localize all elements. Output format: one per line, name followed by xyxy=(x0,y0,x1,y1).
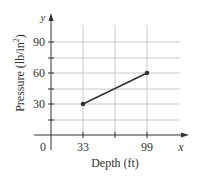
x-axis-symbol: x xyxy=(177,140,184,154)
y-axis-title: Pressure (lb/in2) xyxy=(12,34,27,112)
y-axis-title-main: Pressure (lb/in xyxy=(13,42,27,112)
y-axis-symbol: y xyxy=(40,11,46,23)
xtick-label-99: 99 xyxy=(141,140,153,154)
y-axis-title-end: ) xyxy=(13,34,27,38)
grid xyxy=(51,25,180,135)
origin-label: 0 xyxy=(40,140,46,154)
data-point-33-30 xyxy=(81,102,86,107)
xtick-label-33: 33 xyxy=(77,140,89,154)
ytick-label-90: 90 xyxy=(33,35,45,49)
x-axis-title: Depth (ft) xyxy=(91,156,139,170)
axes xyxy=(34,20,182,150)
ytick-label-60: 60 xyxy=(33,66,45,80)
ticks xyxy=(48,42,147,138)
x-axis-arrow-icon xyxy=(181,133,189,138)
data-point-99-60 xyxy=(145,71,150,76)
ytick-label-30: 30 xyxy=(33,97,45,111)
chart: 90 60 30 0 33 99 y x Depth (ft) Pressure… xyxy=(0,0,197,178)
y-axis-arrow-icon xyxy=(49,13,54,21)
